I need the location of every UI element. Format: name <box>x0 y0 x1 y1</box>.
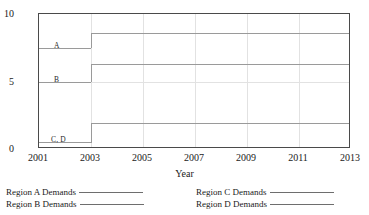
legend-label-region-c: Region C Demands <box>196 187 267 197</box>
chart-container: 10 5 0 A B C, D 2001 2003 2005 200 <box>0 0 369 215</box>
series-label-a: A <box>54 41 60 50</box>
series-b-segment-before <box>39 82 91 83</box>
legend-line-region-c <box>270 192 334 193</box>
x-tick-2001: 2001 <box>28 152 48 163</box>
legend-item-region-b: Region B Demands <box>6 198 144 210</box>
x-tick-2005: 2005 <box>132 152 152 163</box>
series-b-segment-after <box>91 64 349 65</box>
legend-column-left: Region A Demands Region B Demands <box>6 186 144 210</box>
gridline-vertical-2005 <box>143 14 144 147</box>
series-a-segment-before <box>39 48 91 49</box>
y-tick-10: 10 <box>4 8 14 19</box>
series-cd-segment-after <box>91 123 349 124</box>
y-tick-0: 0 <box>9 143 14 154</box>
series-a-segment-after <box>91 33 349 34</box>
legend-label-region-a: Region A Demands <box>6 187 76 197</box>
gridline-vertical-2011 <box>299 14 300 147</box>
x-tick-2007: 2007 <box>184 152 204 163</box>
series-label-b: B <box>54 75 59 84</box>
chart-legend: Region A Demands Region B Demands Region… <box>0 186 369 212</box>
series-cd-step-riser <box>91 123 92 143</box>
series-label-cd: C, D <box>51 135 66 144</box>
legend-label-region-d: Region D Demands <box>196 199 267 209</box>
x-tick-2009: 2009 <box>236 152 256 163</box>
legend-column-right: Region C Demands Region D Demands <box>196 186 334 210</box>
legend-line-region-d <box>270 204 334 205</box>
legend-line-region-b <box>80 204 144 205</box>
x-tick-2011: 2011 <box>288 152 308 163</box>
plot-area: A B C, D <box>38 13 350 148</box>
legend-item-region-a: Region A Demands <box>6 186 144 198</box>
x-axis-title: Year <box>0 168 369 179</box>
legend-item-region-d: Region D Demands <box>196 198 334 210</box>
legend-label-region-b: Region B Demands <box>6 199 77 209</box>
x-tick-2003: 2003 <box>80 152 100 163</box>
y-tick-5: 5 <box>9 75 14 86</box>
series-b-step-riser <box>91 64 92 82</box>
legend-item-region-c: Region C Demands <box>196 186 334 198</box>
legend-line-region-a <box>79 192 143 193</box>
gridline-vertical-2009 <box>247 14 248 147</box>
gridline-vertical-2007 <box>195 14 196 147</box>
x-tick-2013: 2013 <box>340 152 360 163</box>
series-a-step-riser <box>91 33 92 49</box>
